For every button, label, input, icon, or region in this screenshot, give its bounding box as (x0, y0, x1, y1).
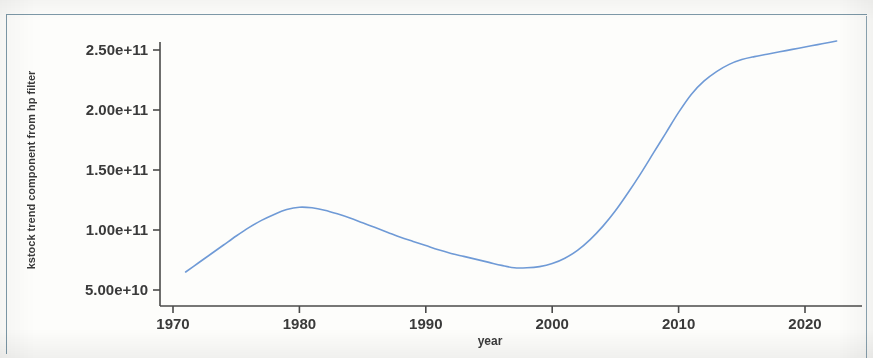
axes: 5.00e+101.00e+111.50e+112.00e+112.50e+11… (85, 41, 862, 332)
y-axis-tick-label: 2.50e+11 (86, 41, 148, 58)
x-axis-tick-label: 2010 (662, 315, 695, 332)
y-axis-tick-labels: 5.00e+101.00e+111.50e+112.00e+112.50e+11 (85, 41, 148, 298)
y-axis-tick-marks (153, 50, 160, 290)
y-axis-tick-label: 2.00e+11 (86, 101, 148, 118)
y-axis-tick-label: 1.50e+11 (86, 161, 148, 178)
x-axis-tick-labels: 197019801990200020102020 (156, 315, 821, 332)
y-axis-title: kstock trend component from hp filter (25, 70, 37, 269)
x-axis-tick-label: 1980 (283, 315, 316, 332)
x-axis-tick-label: 1990 (409, 315, 442, 332)
line-chart: 5.00e+101.00e+111.50e+112.00e+112.50e+11… (0, 0, 873, 358)
data-line-kstock-trend-component-from-hp-filter (186, 41, 837, 272)
x-axis-title: year (478, 334, 503, 348)
x-axis-tick-label: 2000 (536, 315, 569, 332)
y-axis-tick-label: 5.00e+10 (85, 281, 148, 298)
scanned-figure-page: 5.00e+101.00e+111.50e+112.00e+112.50e+11… (0, 0, 873, 358)
data-series-group (186, 41, 837, 272)
y-axis-tick-label: 1.00e+11 (86, 221, 148, 238)
x-axis-tick-marks (173, 306, 805, 313)
x-axis-tick-label: 2020 (788, 315, 821, 332)
x-axis-tick-label: 1970 (156, 315, 189, 332)
